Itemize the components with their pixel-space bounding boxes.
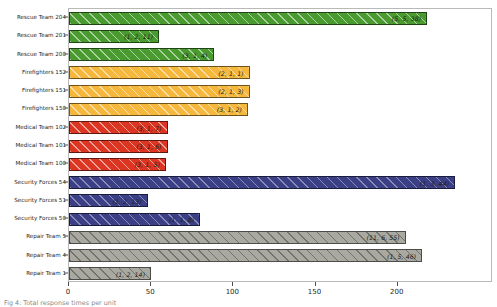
bar-value-label: (3, 1, 6) (136, 143, 161, 150)
bar-value-label: (3, 1, 4) (182, 51, 207, 58)
figure-caption: Fig 4: Total response times per unit (4, 299, 116, 307)
y-axis-tick-label: Medical Team 101 (16, 142, 66, 148)
bar-hatch-pattern (70, 250, 421, 261)
bar-value-label: (2, 1, 3) (218, 88, 243, 95)
bar-row: (3, 1, 6) (69, 140, 492, 153)
y-axis-tick-label: Rescue Team 204 (17, 14, 66, 20)
bar[interactable]: (1, 3, 44) (69, 176, 455, 189)
bar[interactable]: (1, 2, 13) (69, 194, 148, 207)
x-axis-tick-label: 100 (226, 288, 239, 296)
bar[interactable]: (3, 1, 4) (69, 48, 214, 61)
y-axis-tick-label: Security Forces 51 (14, 197, 66, 203)
x-axis-tick-label: 50 (146, 288, 155, 296)
bar[interactable]: (1, 5, 46) (69, 249, 422, 262)
bar-row: (2, 1, 3) (69, 85, 492, 98)
bar-value-label: (1, 5, 46) (387, 252, 416, 259)
y-axis-tick-label: Medical Team 100 (16, 160, 66, 166)
y-axis-tick-label: Rescue Team 200 (17, 51, 66, 57)
bar-row: (3, 1, 5) (69, 158, 492, 171)
x-axis-tick-label: 0 (66, 288, 70, 296)
bar[interactable]: (2, 1, 3) (69, 85, 250, 98)
y-axis-tick-label: Repair Team 1 (26, 270, 66, 276)
bar-row: (1, 3, 44) (69, 176, 492, 189)
bar-row: (11, 6, 55) (69, 231, 492, 244)
x-axis-tick-mark (68, 282, 69, 286)
bar-row: (1, 1, 8) (69, 213, 492, 226)
bar[interactable]: (3, 1, 2) (69, 103, 248, 116)
bar-value-label: (1, 1, 8) (169, 216, 194, 223)
x-axis-tick-mark (150, 282, 151, 286)
chart-figure: Rescue Team 204Rescue Team 201Rescue Tea… (0, 0, 497, 307)
y-axis-tick-label: Security Forces 50 (14, 215, 66, 221)
bar[interactable]: (3, 1, 6) (69, 140, 168, 153)
bar-row: (5, 5, 38) (69, 12, 492, 25)
bar[interactable]: (3, 1, 5) (69, 158, 166, 171)
x-axis-tick-mark (315, 282, 316, 286)
bar-row: (1, 2, 14) (69, 267, 492, 280)
bar-value-label: (1, 3, 44) (420, 179, 449, 186)
y-axis-tick-label: Firefighters 152 (22, 69, 66, 75)
bar-row: (3, 1, 4) (69, 48, 492, 61)
y-axis-tick-label: Firefighters 151 (22, 87, 66, 93)
bar-value-label: (1, 2, 13) (112, 197, 141, 204)
bar-value-label: (3, 1, 5) (135, 161, 160, 168)
bar-row: (3, 1, 2) (69, 103, 492, 116)
y-axis-tick-label: Repair Team 5 (26, 233, 66, 239)
bar[interactable]: (2, 1, 1) (69, 66, 250, 79)
y-axis-tick-label: Security Forces 54 (14, 179, 66, 185)
bar[interactable]: (3, 1, 7) (69, 121, 168, 134)
bar-hatch-pattern (70, 13, 426, 24)
bar-row: (1, 2, 13) (69, 194, 492, 207)
bar[interactable]: (1, 2, 11) (69, 30, 159, 43)
bar-value-label: (5, 5, 38) (392, 15, 421, 22)
bar-row: (3, 1, 7) (69, 121, 492, 134)
y-axis-tick-label: Repair Team 4 (26, 252, 66, 258)
x-axis-tick-label: 200 (390, 288, 403, 296)
bar-value-label: (2, 1, 1) (218, 69, 243, 76)
y-axis-tick-label: Rescue Team 201 (17, 32, 66, 38)
x-axis-tick-label: 150 (308, 288, 321, 296)
bar-value-label: (3, 1, 2) (217, 106, 242, 113)
bar-hatch-pattern (70, 177, 454, 188)
y-axis-tick-label: Medical Team 102 (16, 124, 66, 130)
bar-value-label: (1, 2, 14) (116, 270, 145, 277)
bar-row: (1, 2, 11) (69, 30, 492, 43)
y-axis-tick-label: Firefighters 150 (22, 105, 66, 111)
bar-value-label: (1, 2, 11) (124, 33, 153, 40)
bar[interactable]: (5, 5, 38) (69, 12, 427, 25)
x-axis-tick-mark (232, 282, 233, 286)
plot-area: (5, 5, 38)(1, 2, 11)(3, 1, 4)(2, 1, 1)(2… (68, 8, 492, 282)
bar-value-label: (11, 6, 55) (366, 234, 399, 241)
bar-row: (2, 1, 1) (69, 66, 492, 79)
bar[interactable]: (1, 1, 8) (69, 213, 200, 226)
bar[interactable]: (11, 6, 55) (69, 231, 406, 244)
bar-row: (1, 5, 46) (69, 249, 492, 262)
bar-hatch-pattern (70, 232, 405, 243)
bar[interactable]: (1, 2, 14) (69, 267, 151, 280)
bar-value-label: (3, 1, 7) (136, 124, 161, 131)
x-axis-tick-mark (397, 282, 398, 286)
